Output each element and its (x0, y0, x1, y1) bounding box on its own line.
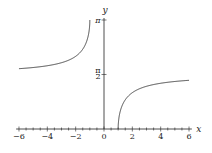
labels: −6−4−20246π2πxy (13, 5, 201, 141)
x-tick-label: −6 (13, 132, 25, 141)
x-tick-label: 0 (101, 132, 106, 141)
left-branch-curve (19, 20, 90, 69)
x-tick-label: 2 (130, 132, 135, 141)
x-tick-label: −4 (41, 132, 53, 141)
x-tick-label: 4 (158, 132, 163, 141)
axes (16, 18, 192, 132)
x-tick-label: −2 (70, 132, 82, 141)
y-tick-label-pi-half-den: 2 (95, 72, 100, 81)
arcsec-chart: −6−4−20246π2πxy (0, 0, 212, 153)
right-branch-curve (118, 80, 189, 129)
x-tick-label: 6 (186, 132, 191, 141)
x-axis-label: x (196, 124, 201, 134)
y-axis-label: y (101, 5, 108, 15)
y-tick-label-pi: π (94, 16, 101, 25)
